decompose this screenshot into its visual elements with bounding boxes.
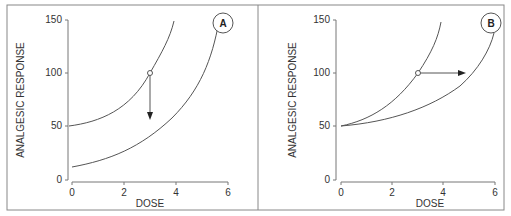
x-axis-label: DOSE xyxy=(136,198,165,209)
arrow-head-icon xyxy=(458,70,466,76)
curve-left xyxy=(341,22,441,126)
y-tick-label: 100 xyxy=(45,67,62,78)
panel-a: 150 100 50 0 0 2 4 6 DOSE ANALGESIC RESP… xyxy=(15,13,233,209)
x-tick-label: 6 xyxy=(225,187,231,198)
data-point xyxy=(148,71,153,76)
x-tick-label: 4 xyxy=(440,187,446,198)
x-tick-label: 0 xyxy=(69,187,75,198)
y-tick-label: 150 xyxy=(45,14,62,25)
y-axis-label: ANALGESIC RESPONSE xyxy=(15,42,26,158)
panel-badge-label: B xyxy=(487,18,494,29)
arrow-head-icon xyxy=(147,112,153,120)
x-tick-label: 2 xyxy=(121,187,127,198)
y-tick-label: 50 xyxy=(319,120,331,131)
x-axis-label: DOSE xyxy=(416,198,445,209)
x-tick-label: 0 xyxy=(338,187,344,198)
figure-frame xyxy=(7,5,504,210)
curve-right xyxy=(341,33,494,126)
figure: 150 100 50 0 0 2 4 6 DOSE ANALGESIC RESP… xyxy=(0,0,511,216)
y-tick-label: 0 xyxy=(56,174,62,185)
y-tick-label: 50 xyxy=(51,120,63,131)
curve-lower xyxy=(72,21,219,167)
panel-b: 150 100 50 0 0 2 4 6 DOSE ANALGESIC RESP… xyxy=(287,13,501,209)
curve-upper xyxy=(69,21,174,126)
panel-badge-label: A xyxy=(219,18,226,29)
x-tick-label: 4 xyxy=(173,187,179,198)
y-tick-label: 100 xyxy=(313,67,330,78)
x-tick-label: 6 xyxy=(492,187,498,198)
data-point xyxy=(416,71,421,76)
y-tick-label: 0 xyxy=(324,174,330,185)
x-tick-label: 2 xyxy=(389,187,395,198)
y-tick-label: 150 xyxy=(313,14,330,25)
y-axis-label: ANALGESIC RESPONSE xyxy=(287,42,298,158)
